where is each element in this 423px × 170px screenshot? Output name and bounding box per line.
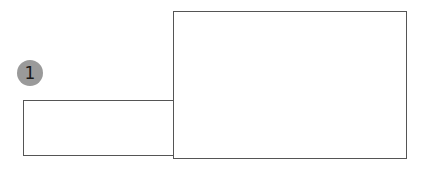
large-rectangle <box>173 11 407 159</box>
number-badge: 1 <box>17 60 43 86</box>
badge-label: 1 <box>25 65 36 82</box>
small-rectangle <box>23 100 174 156</box>
